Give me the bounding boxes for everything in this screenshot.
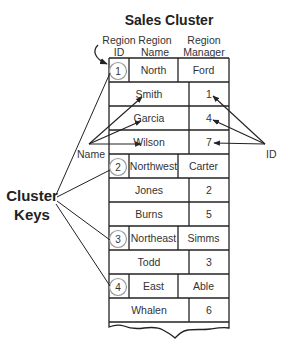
- employee-id: 7: [189, 130, 229, 154]
- cluster-key-2: 2: [109, 158, 127, 176]
- employee-id: 5: [189, 202, 229, 226]
- header-line: Region: [178, 34, 230, 46]
- cluster-key-1: 1: [109, 62, 127, 80]
- cluster-key-3: 3: [109, 230, 127, 248]
- employee-name: Wilson: [109, 130, 189, 154]
- employee-id: 2: [189, 178, 229, 202]
- employee-name: Smith: [109, 82, 189, 106]
- employee-id: 4: [189, 106, 229, 130]
- region-name: East: [129, 274, 178, 298]
- cluster-key-4: 4: [109, 278, 127, 296]
- employee-id: 1: [189, 82, 229, 106]
- cluster-keys-label: Cluster Keys: [6, 186, 58, 224]
- employee-name: Whalen: [109, 298, 189, 322]
- header-line: ID: [102, 46, 136, 58]
- employee-name: Garcia: [109, 106, 189, 130]
- cluster-key-lines: [56, 73, 110, 286]
- name-label: Name: [77, 148, 105, 160]
- cluster-keys-line: Cluster: [6, 186, 58, 205]
- region-manager: Ford: [178, 58, 229, 82]
- region-manager: Carter: [178, 154, 229, 178]
- region-manager: Simms: [178, 226, 229, 250]
- region-name: Northeast: [129, 226, 178, 250]
- header-line: Name: [134, 46, 176, 58]
- region-name: Northwest: [129, 154, 178, 178]
- diagram-title: Sales Cluster: [0, 12, 292, 28]
- employee-name: Jones: [109, 178, 189, 202]
- cluster-keys-line: Keys: [6, 205, 58, 224]
- header-line: Manager: [178, 46, 230, 58]
- region-manager: Able: [178, 274, 229, 298]
- employee-name: Burns: [109, 202, 189, 226]
- id-label: ID: [266, 148, 277, 160]
- header-region-manager: Region Manager: [178, 34, 230, 58]
- header-region-name: Region Name: [134, 34, 176, 58]
- header-line: Region: [134, 34, 176, 46]
- region-name: North: [129, 58, 178, 82]
- header-region-id: Region ID: [102, 34, 136, 58]
- employee-id: 6: [189, 298, 229, 322]
- employee-name: Todd: [109, 250, 189, 274]
- employee-id: 3: [189, 250, 229, 274]
- header-line: Region: [102, 34, 136, 46]
